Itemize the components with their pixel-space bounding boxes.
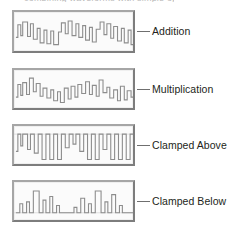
leader-line-clamped-below [137, 201, 150, 202]
leader-line-clamped-above [137, 145, 150, 146]
panel-plot-area-multiplication [14, 70, 133, 108]
waveform-panel-clamped-below [12, 180, 135, 222]
leader-line-multiplication [137, 89, 150, 90]
panel-plot-area-clamped-above [14, 126, 133, 164]
panel-label-clamped-above: Clamped Above [152, 140, 227, 151]
waveform-panel-addition [12, 10, 135, 53]
panel-label-clamped-below: Clamped Below [152, 196, 226, 207]
waveform-trace-clamped-above [16, 134, 133, 159]
panel-plot-area-addition [14, 12, 133, 51]
clipped-caption-text: combining waveforms with simple operatio… [24, 0, 174, 2]
panel-label-multiplication: Multiplication [152, 84, 213, 95]
waveform-svg-addition [14, 12, 133, 51]
waveform-trace-multiplication [16, 78, 133, 102]
waveform-operations-figure: combining waveforms with simple operatio… [0, 0, 235, 234]
panel-plot-area-clamped-below [14, 182, 133, 220]
waveform-panel-clamped-above [12, 124, 135, 166]
waveform-trace-addition [16, 21, 133, 45]
waveform-svg-clamped-above [14, 126, 133, 164]
leader-line-addition [137, 31, 150, 32]
waveform-trace-clamped-below [16, 191, 133, 213]
panel-label-addition: Addition [152, 26, 190, 37]
waveform-panel-multiplication [12, 68, 135, 110]
waveform-svg-clamped-below [14, 182, 133, 220]
waveform-svg-multiplication [14, 70, 133, 108]
